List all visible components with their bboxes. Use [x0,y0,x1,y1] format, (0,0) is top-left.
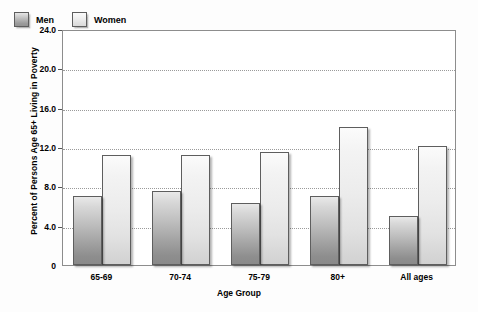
bar-women-7074 [181,155,210,265]
y-axis-tick-label: 12.0 [22,144,56,153]
x-axis-title: Age Group [0,288,478,298]
y-axis-tick-label: 4.0 [22,223,56,232]
bar-men-allages [389,216,418,265]
chart-legend: Men Women [14,12,126,27]
x-axis-tick-label: 80+ [331,272,345,282]
y-axis-tick-label: 24.0 [22,26,56,35]
bar-men-7579 [231,203,260,265]
x-axis-tick-label: All ages [400,272,433,282]
y-axis-tick-label: 0 [22,262,56,271]
legend-item-men: Men [14,12,54,27]
plot-area [62,30,456,266]
bar-women-allages [418,146,447,265]
gridline [63,110,455,111]
y-axis-tick-label: 8.0 [22,183,56,192]
chart-figure: Percent of Persons Age 65+ Living in Pov… [0,0,478,312]
bar-women-80+ [339,127,368,265]
bar-women-7579 [260,152,289,265]
legend-label-men: Men [36,15,54,25]
legend-label-women: Women [94,15,126,25]
y-axis-tick-label: 20.0 [22,65,56,74]
x-axis-tick-label: 65-69 [91,272,113,282]
y-axis-title: Percent of Persons Age 65+ Living in Pov… [29,11,39,271]
x-axis-tick-label: 75-79 [248,272,270,282]
legend-item-women: Women [72,12,126,27]
bar-women-6569 [102,155,131,265]
legend-swatch-men-icon [14,12,29,27]
gridline [63,70,455,71]
gridline [63,149,455,150]
x-axis-tick-label: 70-74 [169,272,191,282]
bar-men-7074 [152,191,181,265]
legend-swatch-women-icon [72,12,87,27]
y-axis-tick-label: 16.0 [22,105,56,114]
bar-men-6569 [73,196,102,265]
bar-men-80+ [310,196,339,265]
